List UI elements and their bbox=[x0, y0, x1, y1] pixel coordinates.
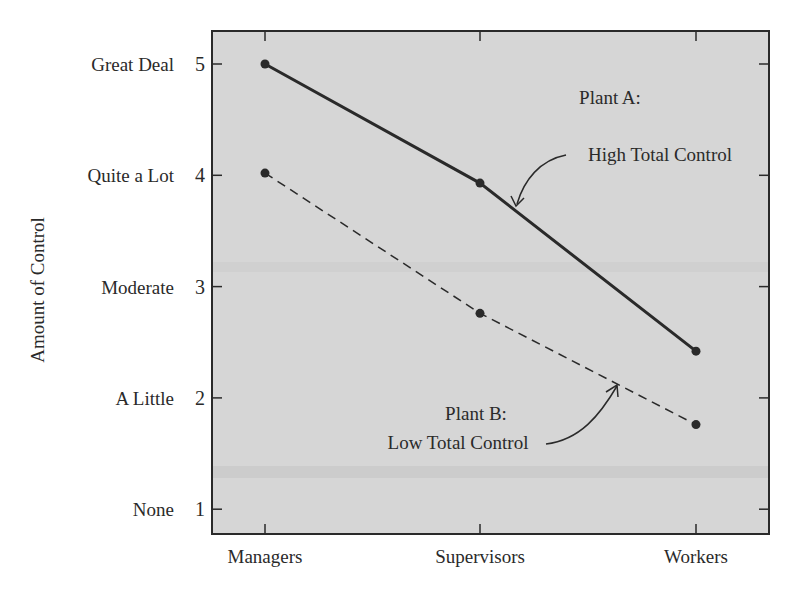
x-tick-label: Managers bbox=[228, 546, 303, 567]
y-tick-label: None bbox=[133, 499, 174, 520]
y-tick-label: Great Deal bbox=[91, 54, 174, 75]
y-tick-number: 2 bbox=[195, 387, 205, 409]
y-tick-label: A Little bbox=[115, 388, 174, 409]
annotation-plant-b-title: Plant B: bbox=[445, 403, 507, 424]
data-point bbox=[476, 309, 485, 318]
scan-band bbox=[213, 262, 768, 272]
x-tick-label: Supervisors bbox=[435, 546, 525, 567]
data-point bbox=[476, 179, 485, 188]
data-point bbox=[261, 169, 270, 178]
annotation-plant-a-subtitle: High Total Control bbox=[588, 144, 732, 165]
annotation-plant-a-title: Plant A: bbox=[579, 87, 641, 108]
plot-area bbox=[212, 31, 769, 534]
y-tick-label: Quite a Lot bbox=[87, 165, 174, 186]
chart: 1None2A Little3Moderate4Quite a Lot5Grea… bbox=[0, 0, 789, 597]
y-tick-label: Moderate bbox=[101, 277, 174, 298]
annotation-plant-b-subtitle: Low Total Control bbox=[388, 432, 529, 453]
data-point bbox=[692, 420, 701, 429]
y-tick-number: 3 bbox=[195, 276, 205, 298]
data-point bbox=[261, 60, 270, 69]
data-point bbox=[692, 347, 701, 356]
y-tick-number: 5 bbox=[195, 53, 205, 75]
y-axis-label: Amount of Control bbox=[27, 217, 48, 363]
x-tick-label: Workers bbox=[664, 546, 728, 567]
y-tick-number: 1 bbox=[195, 498, 205, 520]
scan-band bbox=[213, 466, 768, 478]
y-tick-number: 4 bbox=[195, 164, 205, 186]
